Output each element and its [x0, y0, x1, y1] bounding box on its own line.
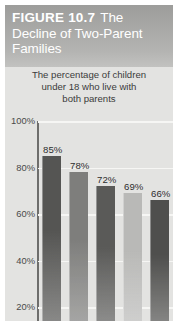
bar-value-label: 78% — [70, 161, 89, 171]
bar-value-label: 66% — [151, 189, 170, 199]
y-axis-tick-label: 20% — [5, 302, 38, 312]
figure-number: FIGURE 10.7 — [12, 10, 95, 25]
bar[interactable] — [123, 193, 142, 321]
bar-value-label: 69% — [124, 182, 143, 192]
y-axis-tick-label: 40% — [5, 256, 38, 266]
bar[interactable] — [42, 156, 61, 321]
bar-value-label: 85% — [43, 145, 62, 155]
bar[interactable] — [150, 200, 169, 321]
bar-chart: 100%80%60%40%20% 85%78%72%69%66% — [5, 113, 173, 321]
bar[interactable] — [69, 172, 88, 321]
y-axis-tick-label: 100% — [5, 116, 38, 126]
figure-title-line3: Families — [12, 41, 61, 56]
figure-header-band: FIGURE 10.7The Decline of Two-Parent Fam… — [5, 5, 173, 67]
figure-title-line2: Decline of Two-Parent — [12, 26, 142, 41]
bar[interactable] — [96, 186, 115, 321]
figure-title: FIGURE 10.7The Decline of Two-Parent Fam… — [12, 10, 167, 57]
figure-subtitle-line1: The percentage of children — [5, 69, 173, 81]
figure-subtitle-line3: both parents — [5, 93, 173, 105]
figure-subtitle: The percentage of children under 18 who … — [5, 69, 173, 106]
figure-panel: FIGURE 10.7The Decline of Two-Parent Fam… — [5, 5, 173, 321]
bar-value-label: 72% — [97, 175, 116, 185]
y-axis-tick-label: 60% — [5, 209, 38, 219]
figure-subtitle-line2: under 18 who live with — [5, 81, 173, 93]
figure-title-line1: The — [100, 10, 123, 25]
y-axis-tick-label: 80% — [5, 163, 38, 173]
plot-area: 85%78%72%69%66% — [38, 121, 173, 321]
gridline — [38, 121, 173, 123]
y-axis-tick-labels: 100%80%60%40%20% — [5, 121, 38, 321]
